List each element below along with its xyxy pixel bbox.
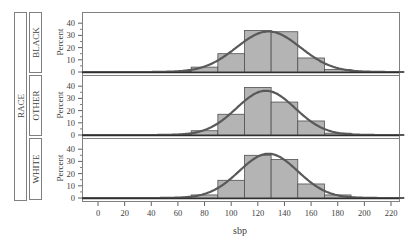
x-tick-label: 140 xyxy=(278,208,291,218)
race-header-label: RACE xyxy=(16,94,26,119)
histogram-bar xyxy=(245,31,272,72)
histogram-bar xyxy=(298,184,325,198)
x-axis-label: sbp xyxy=(233,225,247,236)
y-tick-label: 0 xyxy=(71,193,75,203)
y-tick-label: 40 xyxy=(67,81,76,91)
y-tick-label: 30 xyxy=(67,30,76,40)
x-tick-label: 0 xyxy=(96,208,100,218)
y-tick-label: 0 xyxy=(71,67,75,77)
x-tick-label: 120 xyxy=(251,208,264,218)
row-headers: RACEBLACKOTHERWHITE xyxy=(15,13,42,201)
y-tick-label: 0 xyxy=(71,130,75,140)
x-tick-label: 100 xyxy=(225,208,238,218)
row-header-label-black: BLACK xyxy=(31,27,41,58)
y-tick-label: 10 xyxy=(67,55,76,65)
histogram-bar xyxy=(218,114,245,135)
y-tick-label: 40 xyxy=(67,18,76,28)
y-axis-label: Percent xyxy=(55,28,65,55)
panel-black: Percent010203040 xyxy=(55,13,404,78)
y-tick-label: 20 xyxy=(67,169,76,179)
x-tick-label: 160 xyxy=(305,208,318,218)
y-tick-label: 20 xyxy=(67,43,76,53)
histogram-bar xyxy=(271,160,298,198)
histogram-panel-chart: RACEBLACKOTHERWHITE Percent010203040Perc… xyxy=(0,0,412,246)
panel-white: Percent010203040 xyxy=(55,139,404,204)
y-tick-label: 10 xyxy=(67,181,76,191)
x-tick-label: 20 xyxy=(120,208,129,218)
histogram-bar xyxy=(271,32,298,72)
row-header-label-white: WHITE xyxy=(31,154,41,183)
y-axis-label: Percent xyxy=(55,154,65,181)
histogram-bar xyxy=(218,180,245,198)
x-tick-label: 200 xyxy=(358,208,371,218)
x-tick-label: 80 xyxy=(200,208,209,218)
panels: Percent010203040Percent010203040Percent0… xyxy=(55,13,404,204)
y-tick-label: 40 xyxy=(67,144,76,154)
row-header-label-other: OTHER xyxy=(31,91,41,121)
y-tick-label: 30 xyxy=(67,93,76,103)
y-axis-label: Percent xyxy=(55,91,65,118)
x-axis: 020406080100120140160180200220 xyxy=(96,202,398,218)
histogram-bar xyxy=(218,54,245,72)
y-tick-label: 20 xyxy=(67,106,76,116)
x-tick-label: 60 xyxy=(174,208,183,218)
histogram-bar xyxy=(245,87,272,135)
x-tick-label: 180 xyxy=(331,208,344,218)
y-tick-label: 30 xyxy=(67,156,76,166)
x-tick-label: 40 xyxy=(147,208,156,218)
y-tick-label: 10 xyxy=(67,118,76,128)
panel-other: Percent010203040 xyxy=(55,76,404,141)
x-tick-label: 220 xyxy=(385,208,398,218)
